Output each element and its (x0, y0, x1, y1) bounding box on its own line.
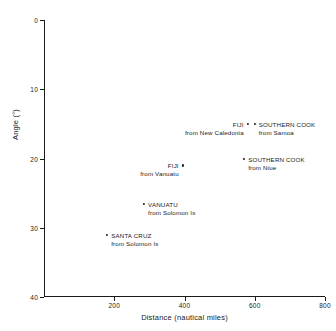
scatter-chart-figure: Angle (°) Distance (nautical miles) 0102… (0, 0, 336, 331)
data-point-label: SOUTHERN COOKfrom Niue (248, 156, 305, 172)
y-tick-mark (40, 297, 44, 298)
data-point-origin: from Solomon Is (148, 209, 195, 217)
data-point-origin: from New Caledonia (185, 129, 244, 137)
data-point-origin: from Vanuatu (140, 170, 179, 178)
data-point-marker[interactable] (247, 123, 249, 125)
x-tick-mark (325, 297, 326, 301)
y-axis-title: Angle (°) (11, 109, 20, 140)
data-point-marker[interactable] (106, 234, 108, 236)
data-point-label: SOUTHERN COOKfrom Samoa (259, 121, 316, 137)
data-point-name: SOUTHERN COOK (248, 156, 305, 164)
y-tick-label: 20 (30, 155, 38, 162)
data-point-name: VANUATU (148, 201, 195, 209)
data-point-origin: from Samoa (259, 129, 316, 137)
data-point-label: FIJIfrom New Caledonia (185, 121, 244, 137)
data-point-label: SANTA CRUZfrom Solomon Is (111, 232, 158, 248)
data-point-name: SANTA CRUZ (111, 232, 158, 240)
y-tick-mark (40, 228, 44, 229)
data-point-marker[interactable] (143, 202, 145, 204)
y-tick-mark (40, 89, 44, 90)
y-axis-line (44, 20, 45, 297)
x-tick-label: 600 (249, 302, 260, 309)
data-point-marker[interactable] (254, 123, 256, 125)
y-tick-label: 30 (30, 224, 38, 231)
x-tick-label: 200 (109, 302, 120, 309)
x-tick-mark (114, 297, 115, 301)
y-tick-label: 40 (30, 294, 38, 301)
x-tick-label: 400 (179, 302, 190, 309)
data-point-marker[interactable] (243, 157, 245, 159)
plot-area: 010203040 200400600800 FIJIfrom New Cale… (44, 20, 325, 297)
data-point-label: FIJIfrom Vanuatu (140, 162, 179, 178)
data-point-name: FIJI (185, 121, 244, 129)
x-tick-mark (185, 297, 186, 301)
y-tick-label: 10 (30, 86, 38, 93)
data-point-label: VANUATUfrom Solomon Is (148, 201, 195, 217)
y-tick-label: 0 (34, 17, 38, 24)
data-point-origin: from Niue (248, 164, 305, 172)
x-axis-title: Distance (nautical miles) (44, 313, 325, 322)
data-point-origin: from Solomon Is (111, 240, 158, 248)
y-tick-mark (40, 159, 44, 160)
data-point-marker[interactable] (182, 164, 184, 166)
x-tick-label: 800 (319, 302, 330, 309)
x-tick-mark (255, 297, 256, 301)
data-point-name: FIJI (140, 162, 179, 170)
y-tick-mark (40, 20, 44, 21)
data-point-name: SOUTHERN COOK (259, 121, 316, 129)
